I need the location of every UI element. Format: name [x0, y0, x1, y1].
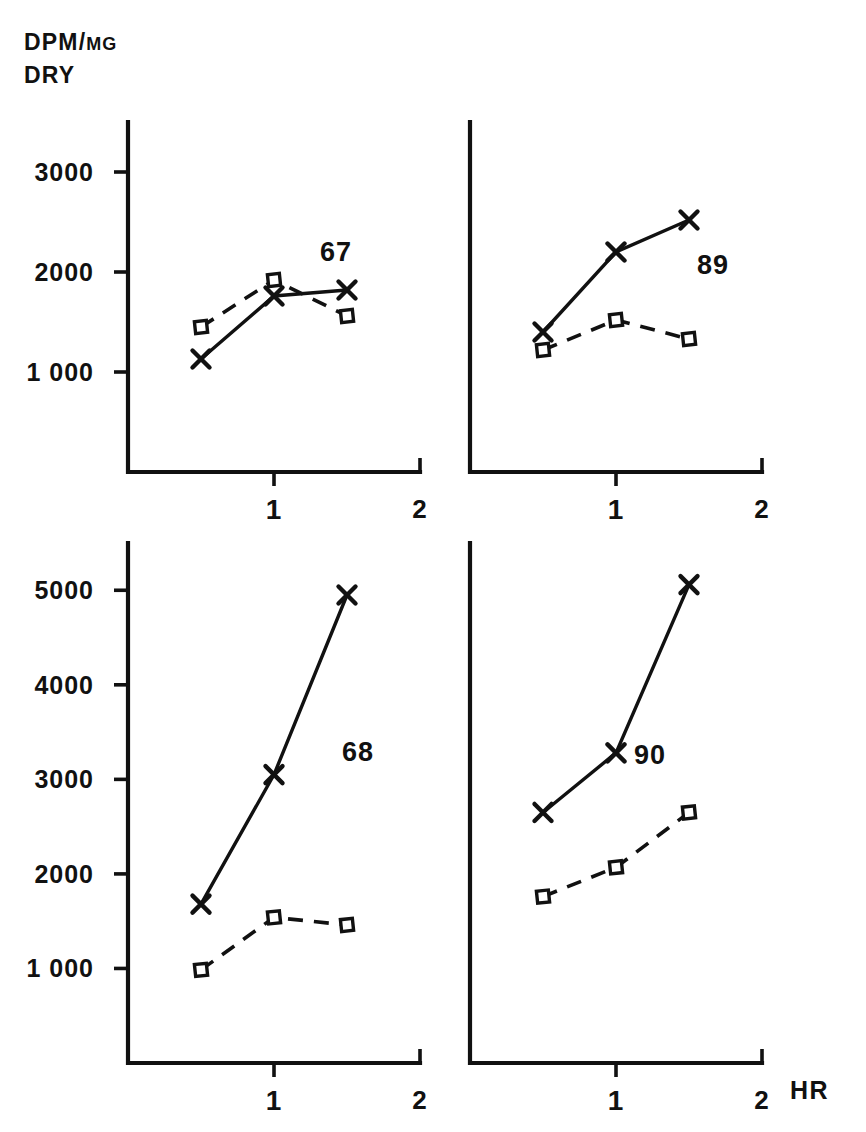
x-tick-label: 2 — [412, 1085, 427, 1116]
x-tick-label: 1 — [266, 494, 283, 526]
panel-67 — [114, 122, 420, 486]
y-tick-label: 3000 — [0, 158, 94, 187]
x-tick-label: 1 — [608, 1085, 625, 1117]
marker-square — [340, 309, 353, 322]
marker-square — [340, 918, 353, 931]
y-tick-label: 1 000 — [0, 358, 94, 387]
marker-x — [608, 244, 625, 261]
marker-x — [266, 766, 283, 783]
y-tick-label: 1 000 — [0, 954, 94, 983]
figure-root: DPM/MGDRY 300020001 00012671289500040003… — [0, 0, 866, 1132]
y-tick-label: 2000 — [0, 859, 94, 888]
series-line-x — [201, 595, 347, 904]
x-tick-label: 1 — [266, 1085, 283, 1117]
panel-axis-spine — [128, 543, 420, 1063]
x-axis-unit-label: HR — [790, 1076, 829, 1105]
y-tick-label: 4000 — [0, 670, 94, 699]
marker-square — [536, 890, 549, 903]
series-line-square — [543, 813, 689, 897]
marker-square — [194, 320, 207, 333]
x-tick-label: 1 — [608, 494, 625, 526]
plot-layer — [0, 0, 866, 1132]
series-line-x — [543, 585, 689, 813]
series-line-square — [201, 917, 347, 970]
panel-90 — [470, 543, 762, 1077]
y-tick-label: 3000 — [0, 765, 94, 794]
panel-label-67: 67 — [320, 237, 352, 268]
panel-label-90: 90 — [634, 740, 666, 771]
marker-square — [194, 963, 207, 976]
marker-x — [681, 576, 698, 593]
x-tick-label: 2 — [412, 494, 427, 525]
marker-x — [339, 587, 356, 604]
panel-68 — [114, 543, 420, 1077]
x-tick-label: 2 — [754, 1085, 769, 1116]
marker-x — [193, 896, 210, 913]
x-tick-label: 2 — [754, 494, 769, 525]
y-tick-label: 5000 — [0, 576, 94, 605]
marker-square — [536, 343, 549, 356]
marker-square — [682, 806, 695, 819]
marker-square — [267, 911, 280, 924]
panel-label-89: 89 — [697, 250, 729, 281]
marker-x — [681, 212, 698, 229]
panel-89 — [470, 122, 762, 486]
marker-x — [193, 351, 210, 368]
marker-square — [682, 332, 695, 345]
panel-label-68: 68 — [342, 737, 374, 768]
marker-x — [535, 324, 552, 341]
marker-square — [609, 313, 622, 326]
y-tick-label: 2000 — [0, 258, 94, 287]
series-line-x — [201, 290, 347, 359]
marker-square — [609, 861, 622, 874]
panel-axis-spine — [470, 122, 762, 472]
marker-x — [608, 744, 625, 761]
panel-axis-spine — [470, 543, 762, 1063]
marker-x — [535, 804, 552, 821]
marker-square — [267, 273, 280, 286]
